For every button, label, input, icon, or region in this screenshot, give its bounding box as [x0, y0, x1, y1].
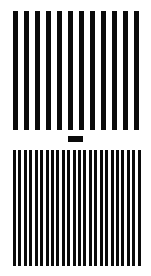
low-frequency-grating: [13, 11, 142, 130]
high-frequency-grating: [13, 150, 142, 266]
separator-bar: [68, 136, 83, 142]
